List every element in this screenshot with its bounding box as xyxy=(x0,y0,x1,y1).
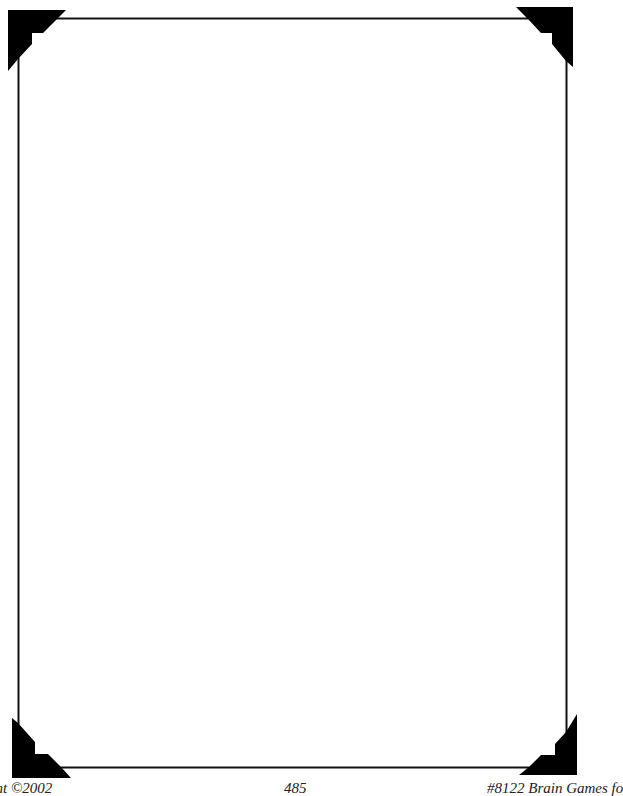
corner-ornament-top-right xyxy=(516,7,573,67)
page-number: 485 xyxy=(284,781,307,796)
footer-copyright: right ©2002 xyxy=(0,781,52,796)
corner-ornament-bottom-right xyxy=(519,714,577,775)
footer-book-title: #8122 Brain Games fo xyxy=(487,781,623,796)
border-rectangle xyxy=(19,19,567,768)
corner-ornament-bottom-left xyxy=(12,718,71,778)
